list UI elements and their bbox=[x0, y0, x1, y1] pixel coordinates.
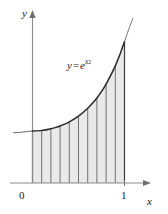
x-tick-label-one: 1 bbox=[121, 190, 127, 201]
equation-label: y=ex2 bbox=[67, 58, 91, 71]
y-axis-arrow-icon bbox=[29, 10, 35, 18]
x-axis-label: x bbox=[147, 196, 152, 207]
equation-equals: = bbox=[72, 59, 80, 71]
curve-extension bbox=[125, 18, 134, 41]
figure-container: y x 0 1 y=ex2 bbox=[0, 0, 168, 214]
origin-label: 0 bbox=[19, 190, 25, 201]
x-axis-arrow-icon bbox=[143, 180, 151, 186]
plot-canvas bbox=[0, 0, 168, 214]
y-axis-label: y bbox=[22, 8, 27, 19]
equation-exponent-power: 2 bbox=[88, 59, 91, 65]
curve-left-tail bbox=[14, 131, 33, 133]
